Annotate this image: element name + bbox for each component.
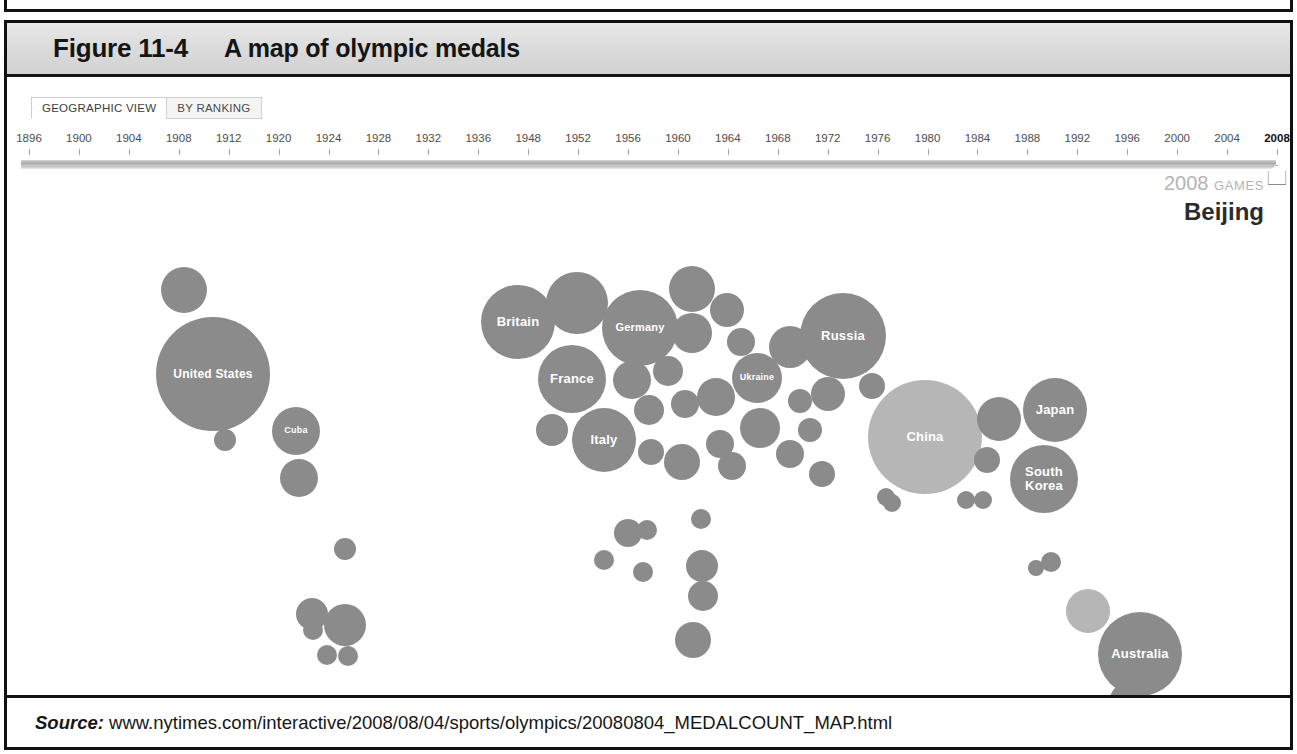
bubble-mexico[interactable] — [214, 429, 236, 451]
bubble-indonesia[interactable] — [974, 491, 992, 509]
bubble-label: Italy — [590, 433, 617, 447]
bubble-fiji[interactable] — [1041, 552, 1061, 572]
bubble-norway[interactable] — [672, 313, 712, 353]
bubble-label: Germany — [615, 322, 664, 334]
bubble-hong-kong[interactable] — [974, 447, 1000, 473]
bubble-sweden[interactable] — [710, 293, 744, 327]
bubble-serbia[interactable] — [718, 452, 746, 480]
bubble-taiwan[interactable] — [977, 397, 1021, 441]
bubble-label: South Korea — [1010, 465, 1078, 493]
bubble-label: Cuba — [284, 426, 307, 436]
bubble-egypt[interactable] — [686, 550, 718, 582]
bubble-germany[interactable]: Germany — [602, 290, 678, 366]
bubble-slovakia[interactable] — [638, 439, 664, 465]
bubble-chile[interactable] — [317, 645, 337, 665]
source-label: Source: — [35, 712, 104, 733]
bubble-new-zealand[interactable] — [1066, 589, 1110, 633]
bubble-south-africa[interactable] — [675, 622, 711, 658]
bubble-denmark[interactable] — [669, 266, 715, 312]
source-url: www.nytimes.com/interactive/2008/08/04/s… — [109, 712, 892, 733]
figure-header-bar: Figure 11-4 A map of olympic medals — [7, 23, 1290, 77]
bubble-india[interactable] — [883, 494, 901, 512]
bubble-peru[interactable] — [303, 620, 323, 640]
bubble-label: Australia — [1111, 647, 1168, 661]
bubble-argentina[interactable] — [338, 646, 358, 666]
bubble-spain[interactable] — [536, 414, 568, 446]
bubble-uzbekistan[interactable] — [809, 461, 835, 487]
page-frame-stub — [4, 0, 1293, 12]
bubble-turkey[interactable] — [798, 418, 822, 442]
source-line: Source: www.nytimes.com/interactive/2008… — [35, 712, 892, 734]
bubble-australia[interactable]: Australia — [1098, 612, 1182, 695]
bubble-japan[interactable]: Japan — [1023, 378, 1087, 442]
bubble-kenya[interactable] — [637, 520, 657, 540]
bubble-canada[interactable] — [161, 267, 207, 313]
bubble-label: United States — [173, 368, 252, 381]
bubble-jamaica[interactable] — [280, 459, 318, 497]
bubble-tunisia[interactable] — [688, 581, 718, 611]
bubble-czech[interactable] — [653, 356, 683, 386]
bubble-austria[interactable] — [634, 395, 664, 425]
bubble-greece[interactable] — [776, 440, 804, 468]
bubble-cameroon[interactable] — [633, 562, 653, 582]
bubble-brazil[interactable] — [324, 604, 366, 646]
figure-container: Figure 11-4 A map of olympic medals GEOG… — [4, 20, 1293, 750]
bubble-italy[interactable]: Italy — [572, 408, 636, 472]
bubble-kazakhstan[interactable] — [859, 373, 885, 399]
bubble-bulgaria[interactable] — [740, 408, 780, 448]
bubble-south-korea[interactable]: South Korea — [1010, 445, 1078, 513]
bubble-russia[interactable]: Russia — [800, 293, 886, 379]
bubble-belgium[interactable] — [613, 361, 651, 399]
bubble-poland[interactable] — [727, 328, 755, 356]
bubble-label: France — [550, 372, 594, 386]
bubble-croatia[interactable] — [664, 444, 700, 480]
bubble-romania[interactable] — [697, 378, 735, 416]
bubble-france[interactable]: France — [538, 345, 606, 413]
bubble-label: Japan — [1036, 403, 1075, 417]
figure-title: A map of olympic medals — [224, 33, 520, 62]
bubble-thailand[interactable] — [957, 491, 975, 509]
bubble-britain[interactable]: Britain — [481, 285, 555, 359]
bubble-netherlands[interactable] — [546, 272, 608, 334]
bubble-nigeria[interactable] — [594, 550, 614, 570]
bubble-map-canvas: United StatesCubaBritainGermanyFranceUkr… — [7, 77, 1290, 695]
bubble-label: Ukraine — [740, 373, 774, 383]
bubble-azerbaijan[interactable] — [788, 389, 812, 413]
bubble-united-states[interactable]: United States — [156, 317, 270, 431]
bubble-label: Britain — [497, 315, 540, 329]
figure-number: Figure 11-4 — [53, 32, 188, 63]
bubble-label: Russia — [821, 329, 865, 343]
bubble-china[interactable]: China — [868, 380, 982, 494]
bubble-hungary[interactable] — [671, 390, 699, 418]
bubble-morocco[interactable] — [691, 509, 711, 529]
bubble-label: China — [906, 430, 943, 444]
bubble-cuba[interactable]: Cuba — [272, 407, 320, 455]
screenshot-app-area: GEOGRAPHIC VIEWBY RANKING 18961900190419… — [7, 77, 1290, 695]
bubble-colombia[interactable] — [334, 538, 356, 560]
bubble-georgia[interactable] — [811, 377, 845, 411]
source-bar: Source: www.nytimes.com/interactive/2008… — [7, 695, 1290, 747]
